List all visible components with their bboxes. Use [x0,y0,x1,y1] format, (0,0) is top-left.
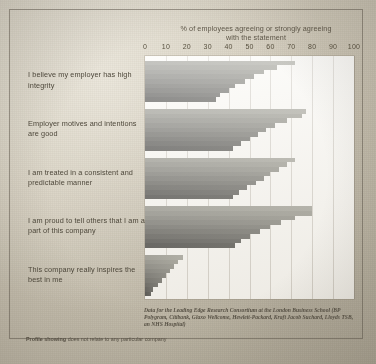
bar-group [145,206,354,247]
scanned-page: % of employees agreeing or strongly agre… [0,0,376,364]
x-axis-tick-70: 70 [287,43,295,50]
chart-title-line-2: with the statement [134,33,376,42]
x-axis-tick-0: 0 [143,43,147,50]
figure-frame: % of employees agreeing or strongly agre… [9,9,363,339]
bar-group [145,158,354,199]
profile-note-rest: does not relate to any particular compan… [66,336,166,342]
bar-group [145,255,354,296]
bar-segment [145,292,151,297]
bar-segment [145,243,235,248]
x-axis-tick-80: 80 [308,43,316,50]
plot-area [145,56,354,299]
statement-label-2: Employer motives and intentions are good [28,119,146,139]
x-axis-tick-20: 20 [183,43,191,50]
x-axis-tick-10: 10 [162,43,170,50]
x-axis-tick-90: 90 [329,43,337,50]
statement-label-5: This company really inspires the best in… [28,265,146,285]
x-axis-tick-50: 50 [245,43,253,50]
x-axis-tick-30: 30 [204,43,212,50]
profile-note-bold: Profile showing [26,336,66,342]
chart-title: % of employees agreeing or strongly agre… [134,24,376,43]
x-axis-tick-60: 60 [266,43,274,50]
bar-segment [145,146,233,151]
source-note: Data for the Leading Edge Research Conso… [144,307,354,329]
bar-group [145,61,354,102]
x-axis-tick-100: 100 [348,43,360,50]
bar-segment [145,97,216,102]
statement-label-3: I am treated in a consistent and predict… [28,168,146,188]
x-axis-tick-40: 40 [225,43,233,50]
gridline-100 [354,56,355,299]
bar-segment [145,195,233,200]
statement-label-4: I am proud to tell others that I am a pa… [28,216,146,236]
bar-group [145,109,354,150]
statement-label-1: I believe my employer has high integrity [28,70,146,90]
profile-note: Profile showing does not relate to any p… [26,336,326,343]
chart-title-line-1: % of employees agreeing or strongly agre… [134,24,376,33]
